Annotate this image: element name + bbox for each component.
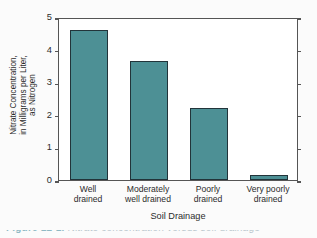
y-axis-title-line-1: Nitrate Concentration,	[9, 55, 19, 135]
y-axis-tick-3	[55, 84, 59, 85]
plot-area	[58, 18, 298, 181]
y-axis-tick-1	[297, 149, 301, 150]
y-axis-tick-0	[297, 181, 301, 182]
x-axis-category-3-line-1: drained	[238, 194, 298, 204]
x-axis-category-2: Poorlydrained	[178, 184, 238, 205]
x-axis-category-3-line-0: Very poorly	[238, 184, 298, 194]
y-axis-tick-3	[297, 84, 301, 85]
bar-0	[70, 30, 107, 180]
y-axis-tick-4	[297, 51, 301, 52]
bar-1	[130, 61, 167, 180]
bar-3	[250, 175, 287, 180]
y-axis-tick-2	[55, 116, 59, 117]
y-axis-tick-4	[55, 51, 59, 52]
y-axis-tick-0	[55, 181, 59, 182]
x-axis-category-3: Very poorlydrained	[238, 184, 298, 205]
figure-caption-text: Figure 12-1. Nitrate concentration versu…	[6, 230, 260, 233]
y-axis-tick-1	[55, 149, 59, 150]
chart-screenshot: Nitrate Concentration, in Milligrams per…	[0, 0, 317, 238]
bar-2	[190, 108, 227, 180]
y-axis-tick-label-1: 1	[40, 143, 52, 152]
x-axis-category-2-line-0: Poorly	[178, 184, 238, 194]
y-axis-title-line-3: as Nitrogen	[28, 55, 38, 135]
x-axis-category-0-line-0: Well	[58, 184, 118, 194]
y-axis-tick-2	[297, 116, 301, 117]
figure-caption-body: Nitrate concentration versus soil draina…	[68, 230, 260, 233]
y-axis-tick-5	[297, 18, 301, 19]
y-axis-tick-labels: 012345	[38, 0, 52, 190]
figure-caption-label: Figure 12-1.	[6, 230, 65, 233]
x-axis-category-1-line-0: Moderately	[118, 184, 178, 194]
y-axis-title-line-2: in Milligrams per Liter,	[18, 55, 28, 135]
x-axis-category-0-line-1: drained	[58, 194, 118, 204]
x-axis-category-labels: WelldrainedModeratelywell drainedPoorlyd…	[58, 184, 298, 210]
figure-caption: Figure 12-1. Nitrate concentration versu…	[0, 230, 317, 238]
y-axis-tick-label-3: 3	[40, 78, 52, 87]
x-axis-category-0: Welldrained	[58, 184, 118, 205]
x-axis-category-1-line-1: well drained	[118, 194, 178, 204]
y-axis-tick-label-4: 4	[40, 46, 52, 55]
y-axis-tick-label-0: 0	[40, 176, 52, 185]
y-axis-tick-label-5: 5	[40, 13, 52, 22]
x-axis-category-2-line-1: drained	[178, 194, 238, 204]
y-axis-title-text: Nitrate Concentration, in Milligrams per…	[9, 55, 38, 135]
y-axis-tick-label-2: 2	[40, 111, 52, 120]
y-axis-tick-5	[55, 18, 59, 19]
x-axis-title: Soil Drainage	[58, 211, 298, 221]
x-axis-category-1: Moderatelywell drained	[118, 184, 178, 205]
